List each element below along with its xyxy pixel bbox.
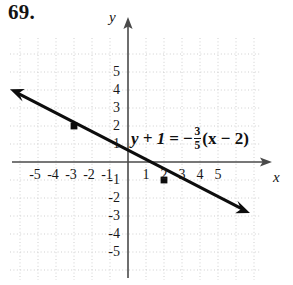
equation-annotation: y + 1=−35(x − 2) [131,126,249,151]
equation-rhs-paren: (x − 2) [202,129,249,148]
x-tick-label-5: 5 [209,168,227,182]
x-axis-label: x [273,170,280,185]
y-tick-label--3: -3 [96,209,120,223]
equation-sign: − [183,129,193,148]
y-tick-label-3: 3 [96,101,120,115]
grid [10,38,261,280]
y-tick-label--4: -4 [96,227,120,241]
y-tick-label-1: 1 [96,137,120,151]
y-tick-label-4: 4 [96,83,120,97]
equation-fraction: 35 [194,126,202,151]
equation-lhs: y + 1 [131,129,165,148]
x-tick-label--5: -5 [26,168,44,182]
x-tick-label-1: 1 [137,168,155,182]
x-tick-label-4: 4 [191,168,209,182]
fraction-numerator: 3 [194,126,202,138]
equation-equals: = [169,129,179,148]
y-tick-label--5: -5 [96,245,120,259]
plotted-point-1 [71,123,78,130]
y-tick-label-2: 2 [96,119,120,133]
x-tick-label--4: -4 [44,168,62,182]
x-tick-label-2: 2 [155,168,173,182]
fraction-denominator: 5 [194,140,202,152]
x-tick-label--3: -3 [62,168,80,182]
y-tick-label-5: 5 [96,65,120,79]
y-tick-label--2: -2 [96,191,120,205]
y-tick-label--1: -1 [96,173,120,187]
y-axis-label: y [109,10,116,25]
x-tick-label-3: 3 [173,168,191,182]
